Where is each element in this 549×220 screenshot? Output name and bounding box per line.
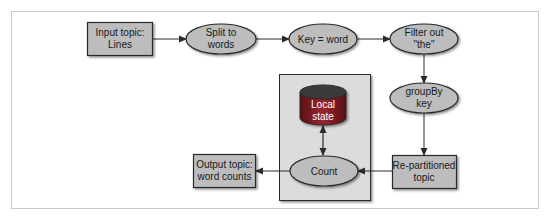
node-split-label-2: words bbox=[207, 39, 235, 50]
node-filter-label-2: "the" bbox=[413, 39, 434, 50]
node-input-topic-label-2: Lines bbox=[108, 39, 132, 50]
node-output-label-1: Output topic: bbox=[196, 159, 253, 170]
node-groupby-label-2: key bbox=[416, 98, 432, 109]
node-local-state-label-2: state bbox=[312, 111, 334, 122]
node-input-topic-label-1: Input topic: bbox=[96, 27, 145, 38]
node-filter-label-1: Filter out bbox=[405, 27, 444, 38]
node-groupby-label-1: groupBy bbox=[405, 86, 442, 97]
node-local-state-label-1: Local bbox=[311, 99, 335, 110]
node-split-label-1: Split to bbox=[206, 27, 237, 38]
node-output-label-2: word counts bbox=[197, 171, 252, 182]
stream-processing-diagram: Input topic: Lines Split to words Key = … bbox=[0, 0, 549, 220]
node-repartitioned-label-1: Re-partitioned bbox=[393, 160, 456, 171]
node-repartitioned-label-2: topic bbox=[413, 172, 434, 183]
node-key-label: Key = word bbox=[298, 34, 348, 45]
node-count-label: Count bbox=[311, 166, 338, 177]
